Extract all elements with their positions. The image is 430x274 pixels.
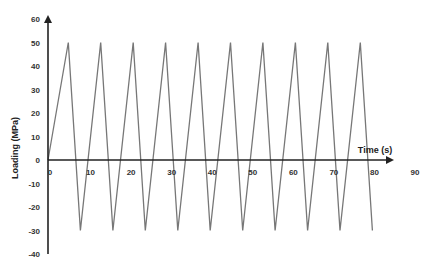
y-tick-label: 0 bbox=[36, 156, 41, 165]
x-tick-label: 90 bbox=[411, 168, 420, 177]
y-tick-label: 30 bbox=[31, 86, 40, 95]
x-tick-label: 60 bbox=[289, 168, 298, 177]
x-tick-label: 30 bbox=[167, 168, 176, 177]
x-tick-label: 80 bbox=[370, 168, 379, 177]
y-tick-label: -40 bbox=[28, 250, 40, 259]
x-tick-label: 50 bbox=[248, 168, 257, 177]
loading-time-chart: 01020304050607080906050403020100-10-20-3… bbox=[0, 0, 430, 274]
y-tick-label: 40 bbox=[31, 62, 40, 71]
x-tick-label: 70 bbox=[329, 168, 338, 177]
y-axis-label: Loading (MPa) bbox=[10, 117, 20, 179]
x-tick-label: 40 bbox=[208, 168, 217, 177]
y-tick-label: -20 bbox=[28, 203, 40, 212]
y-tick-label: 10 bbox=[31, 133, 40, 142]
x-tick-label: 20 bbox=[127, 168, 136, 177]
x-tick-label: 0 bbox=[48, 168, 53, 177]
series-line bbox=[48, 43, 372, 231]
y-tick-label: -10 bbox=[28, 180, 40, 189]
y-tick-label: 50 bbox=[31, 39, 40, 48]
x-axis-label: Time (s) bbox=[358, 145, 392, 155]
y-tick-label: -30 bbox=[28, 227, 40, 236]
y-tick-label: 60 bbox=[31, 15, 40, 24]
y-tick-label: 20 bbox=[31, 109, 40, 118]
data-series bbox=[48, 43, 372, 231]
x-tick-label: 10 bbox=[86, 168, 95, 177]
